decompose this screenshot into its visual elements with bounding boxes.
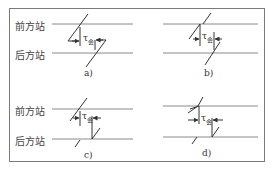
caption-c: c) <box>84 150 93 160</box>
tau-label-c: τ会 <box>82 111 93 124</box>
train-diagram-svg <box>0 0 274 172</box>
caption-d: d) <box>202 148 211 158</box>
tau-label-d: τ会 <box>201 113 212 126</box>
tau-label-b: τ会 <box>202 31 213 44</box>
tau-label-a: τ会 <box>83 33 94 46</box>
caption-a: a) <box>84 68 93 78</box>
caption-b: b) <box>204 68 213 78</box>
